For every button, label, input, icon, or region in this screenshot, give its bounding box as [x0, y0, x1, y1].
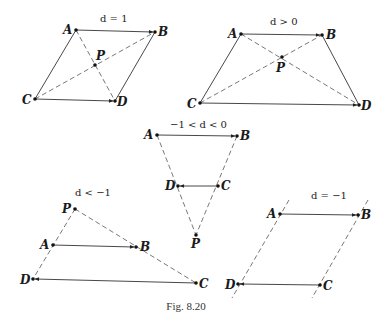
vector-ab: [280, 214, 356, 215]
vector-cd: [200, 103, 357, 105]
condition-label: d = 1: [100, 13, 128, 24]
point-d-label: D: [164, 179, 176, 193]
panel-d-greater-0: d > 0 A B P C D: [187, 16, 372, 113]
point-a-label: A: [39, 238, 49, 252]
point-a-label: A: [62, 23, 72, 37]
condition-label: −1 < d < 0: [170, 119, 227, 130]
vector-cd: [35, 99, 113, 101]
point-b-label: B: [360, 208, 371, 222]
point-d-label: D: [360, 99, 372, 113]
point-d-label: D: [116, 95, 128, 109]
panel-d-equals-1: d = 1 A B P C D: [22, 13, 168, 109]
condition-label: d < −1: [75, 187, 111, 198]
diagonal-ad: [241, 34, 359, 105]
point-c-label: C: [22, 93, 32, 107]
vector-ab: [157, 135, 235, 136]
vector-cd: [35, 279, 196, 283]
point-d-label: D: [19, 273, 31, 287]
vector-cd: [240, 284, 320, 285]
point-p-label: P: [190, 237, 201, 251]
point-c-label: C: [199, 277, 209, 291]
point-b-label: B: [325, 28, 336, 42]
vector-ab: [241, 34, 320, 35]
point-c-label: C: [187, 97, 197, 111]
panel-d-less-neg1: d < −1 P A B D C: [19, 187, 209, 291]
point-p-label: P: [275, 61, 286, 75]
figure-8-20: d = 1 A B P C D d > 0 A B P C D −1 < d <…: [0, 0, 391, 325]
condition-label: d > 0: [270, 16, 298, 27]
point-p-label: P: [61, 202, 72, 216]
point-b-label: B: [139, 240, 150, 254]
point-a-label: A: [143, 128, 153, 142]
point-b-label: B: [157, 25, 168, 39]
point-c-label: C: [221, 179, 231, 193]
point-b-label: B: [239, 129, 250, 143]
vector-ab: [53, 245, 134, 247]
point-d-label: D: [224, 278, 236, 292]
panel-d-equals-neg1: d = −1 A B D C: [224, 190, 371, 298]
segment-bd: [322, 35, 359, 105]
line-ap: [157, 135, 196, 235]
point-a-label: A: [227, 27, 237, 41]
diagonal-cb: [200, 35, 322, 103]
point-p-label: P: [95, 49, 106, 63]
segment-bd: [115, 32, 155, 101]
segment-ac: [200, 34, 241, 103]
figure-caption: Fig. 8.20: [166, 300, 206, 312]
segment-ac: [35, 30, 76, 99]
point-c-label: C: [323, 279, 333, 293]
point-a-label: A: [266, 207, 276, 221]
vector-ab: [76, 30, 153, 32]
panel-d-between-neg1-0: −1 < d < 0 A B D C P: [143, 119, 250, 251]
condition-label: d = −1: [311, 190, 347, 201]
